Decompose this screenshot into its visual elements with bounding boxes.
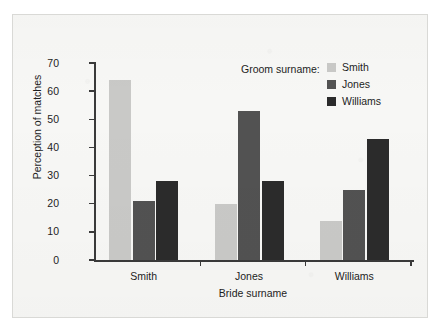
legend-label-smith: Smith [342,62,369,73]
y-tick-label-0: 0 [53,255,59,266]
bar-williams-jones [343,190,365,260]
y-axis-title: Perception of matches [31,62,43,192]
x-group-label-williams: Williams [314,270,394,282]
y-tick-60 [89,90,94,91]
chart-plate: 010203040506070 SmithJonesWilliams Bride… [12,14,428,318]
y-tick-label-10: 10 [47,226,59,237]
bar-smith-smith [109,80,131,260]
y-tick-label-40: 40 [47,142,59,153]
bar-williams-smith [320,221,342,260]
bar-jones-smith [215,204,237,260]
y-tick-label-70: 70 [47,58,59,69]
legend-item-williams[interactable]: Williams [327,96,381,107]
x-axis-line [94,260,414,262]
legend-label-jones: Jones [342,79,370,90]
x-axis-title: Bride surname [95,287,411,299]
bar-williams-williams [367,139,389,260]
y-tick-10 [89,231,94,232]
y-tick-0 [89,259,94,260]
y-tick-40 [89,147,94,148]
y-tick-label-30: 30 [47,170,59,181]
bar-smith-jones [133,201,155,260]
y-tick-30 [89,175,94,176]
legend-label-williams: Williams [342,96,381,107]
x-group-label-jones: Jones [209,270,289,282]
y-tick-20 [89,203,94,204]
y-tick-70 [89,62,94,63]
legend-swatch-jones [327,80,336,89]
bar-jones-williams [262,181,284,260]
legend-item-smith[interactable]: Smith [327,62,369,73]
y-tick-50 [89,119,94,120]
x-group-label-smith: Smith [104,270,184,282]
y-tick-label-20: 20 [47,198,59,209]
legend-item-jones[interactable]: Jones [327,79,370,90]
plot-area [95,63,411,260]
y-tick-label-60: 60 [47,86,59,97]
bar-jones-jones [238,111,260,260]
y-tick-label-50: 50 [47,114,59,125]
figure: 010203040506070 SmithJonesWilliams Bride… [0,0,440,331]
x-tick-3 [410,261,411,266]
x-tick-1 [200,261,201,266]
legend-swatch-williams [327,97,336,106]
legend-title: Groom surname: [241,63,320,75]
x-tick-2 [305,261,306,266]
legend-swatch-smith [327,63,336,72]
bar-smith-williams [156,181,178,260]
